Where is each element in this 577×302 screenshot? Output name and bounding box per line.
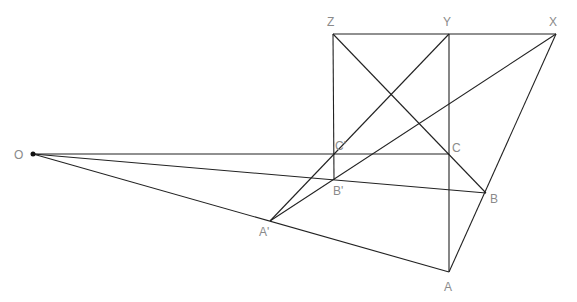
segment-x-a <box>449 34 556 272</box>
diagram-canvas: OABCA'B'C'XYZ <box>0 0 577 302</box>
label-point-a1: A' <box>259 225 269 239</box>
segment-z-b1 <box>333 34 334 180</box>
label-point-o: O <box>14 148 23 162</box>
label-point-c: C <box>452 141 461 155</box>
label-point-a: A <box>444 280 452 294</box>
label-point-y: Y <box>443 15 451 29</box>
label-point-b1: B' <box>333 184 343 198</box>
label-point-b: B <box>490 192 498 206</box>
label-point-c1: C' <box>335 139 346 153</box>
point-o-marker <box>31 152 36 157</box>
label-point-z: Z <box>327 15 334 29</box>
label-point-x: X <box>549 15 557 29</box>
segment-z-b <box>333 34 486 193</box>
segment-x-a1 <box>270 34 556 221</box>
